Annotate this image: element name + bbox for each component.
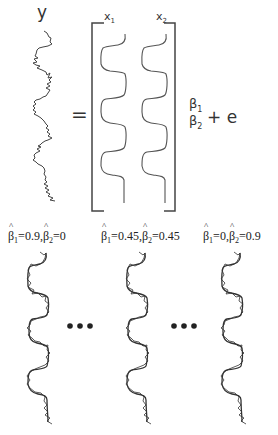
- beta-hat-2: β: [229, 229, 235, 244]
- estimate-label-2: β1=0.45,β2=0.45: [101, 229, 180, 245]
- beta-hat-2: β: [43, 229, 49, 244]
- beta-hat-2: β: [142, 229, 148, 244]
- fit-curve-1: [27, 252, 52, 424]
- right-bracket: [164, 23, 175, 211]
- beta-hat-1: β: [101, 229, 107, 244]
- beta-hat-2-value: =0.45: [152, 229, 180, 243]
- x2-label: x2: [156, 10, 167, 25]
- beta-hat-1: β: [203, 229, 209, 244]
- x1-regressor-curve: [101, 34, 126, 203]
- beta-hat-1-value: =0.9,: [18, 229, 43, 243]
- equals-sign: =: [71, 102, 88, 126]
- beta-hat-1: β: [8, 229, 14, 244]
- fit-curve-2: [126, 252, 151, 424]
- x1-subscript: 1: [111, 17, 115, 25]
- estimate-label-3: β1=0,β2=0.9: [203, 229, 261, 245]
- diagram-graphics: [0, 0, 278, 435]
- beta2-label: β2: [189, 113, 202, 131]
- error-term: + e: [207, 107, 237, 127]
- beta-hat-2-value: =0.9: [239, 229, 261, 243]
- y-signal-curve: [33, 31, 55, 201]
- beta-hat-2-value: =0: [53, 229, 66, 243]
- beta-hat-1-value: =0,: [213, 229, 229, 243]
- y-label: y: [37, 2, 47, 22]
- beta1-label: β1: [189, 96, 202, 114]
- x2-regressor-curve: [142, 34, 167, 203]
- beta-hat-1-value: =0.45,: [111, 229, 142, 243]
- beta2-subscript: 2: [197, 122, 202, 131]
- x2-subscript: 2: [163, 17, 167, 25]
- fit-curve-3: [221, 252, 246, 424]
- x1-label: x1: [104, 10, 115, 25]
- ellipsis-dots-1: [67, 323, 93, 329]
- ellipsis-dots-2: [171, 323, 197, 329]
- estimate-label-1: β1=0.9,β2=0: [8, 229, 66, 245]
